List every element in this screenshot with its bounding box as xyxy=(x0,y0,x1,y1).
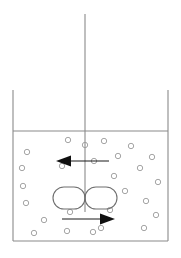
stirred-tank-diagram xyxy=(0,0,181,258)
diagram-canvas xyxy=(0,0,181,258)
